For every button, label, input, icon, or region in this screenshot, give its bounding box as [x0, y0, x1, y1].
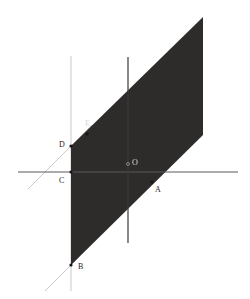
point-label-C: C — [59, 177, 64, 185]
point-marker-E — [85, 132, 88, 135]
point-marker-B — [69, 263, 72, 266]
point-label-B: B — [78, 263, 83, 271]
point-marker-A — [150, 180, 153, 183]
point-label-O: O — [132, 159, 138, 167]
point-label-D: D — [59, 141, 65, 149]
point-label-A: A — [155, 186, 161, 194]
point-marker-D — [69, 144, 72, 147]
geometry-canvas — [0, 0, 250, 299]
point-label-E: E — [85, 120, 90, 128]
geometry-figure: E D C O A B — [0, 0, 250, 299]
point-marker-C — [69, 170, 72, 173]
